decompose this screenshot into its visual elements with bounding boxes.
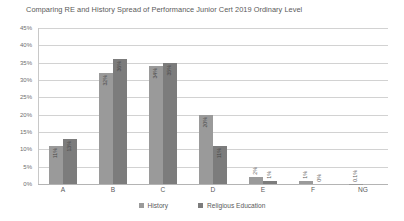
bar-value-label: 1%	[303, 171, 308, 179]
bar-value-label: 13%	[67, 141, 72, 152]
y-axis-tick-label: 25%	[20, 94, 32, 100]
y-axis-tick-label: 35%	[20, 60, 32, 66]
legend-item[interactable]: Religious Education	[198, 202, 265, 209]
bar-value-label: 20%	[203, 117, 208, 128]
y-axis-tick-label: 40%	[20, 42, 32, 48]
y-axis-labels: 45%40%35%30%25%20%15%10%5%0%	[0, 28, 34, 184]
bar[interactable]: 1%	[263, 181, 277, 184]
y-axis-tick-label: 20%	[20, 112, 32, 118]
bar-value-label: 11%	[217, 148, 222, 158]
x-axis-tick-label: E	[261, 186, 265, 193]
gridline	[38, 184, 388, 185]
bar[interactable]: 11%	[49, 146, 63, 184]
bar-group: 32%36%	[88, 28, 138, 184]
bar-value-label: 32%	[103, 75, 108, 86]
y-axis-tick-label: 5%	[23, 164, 32, 170]
bar-value-label: 0.1%	[353, 170, 358, 182]
x-axis-tick-label: NG	[358, 186, 368, 193]
bar[interactable]: 1%	[299, 181, 313, 184]
bar-value-label: 34%	[153, 68, 158, 79]
bar[interactable]: 2%	[249, 177, 263, 184]
bar-value-label: 11%	[53, 148, 58, 158]
bar[interactable]: 20%	[199, 115, 213, 184]
x-axis-tick-label: D	[211, 186, 216, 193]
x-axis-tick-label: A	[61, 186, 65, 193]
bar-group: 11%13%	[38, 28, 88, 184]
bar[interactable]: 36%	[113, 59, 127, 184]
bar-group: 20%11%	[188, 28, 238, 184]
x-axis-labels: ABCDEFNG	[38, 186, 388, 198]
bar[interactable]: 34%	[149, 66, 163, 184]
bar-group: 0.1%	[338, 28, 388, 184]
bar[interactable]: 32%	[99, 73, 113, 184]
y-axis-tick-label: 30%	[20, 77, 32, 83]
bar-value-label: 36%	[117, 61, 122, 72]
bar-value-label: 1%	[267, 171, 272, 179]
legend-label: Religious Education	[207, 202, 265, 209]
y-axis-tick-label: 45%	[20, 25, 32, 31]
x-axis-tick-label: F	[311, 186, 315, 193]
bar-chart: Comparing RE and History Spread of Perfo…	[0, 0, 404, 221]
legend-swatch-icon	[198, 203, 203, 208]
legend-swatch-icon	[139, 203, 144, 208]
plot-area: 11%13%32%36%34%35%20%11%2%1%1%0%0.1%	[38, 28, 388, 184]
bar-series-container: 11%13%32%36%34%35%20%11%2%1%1%0%0.1%	[38, 28, 388, 184]
bar-group: 2%1%	[238, 28, 288, 184]
y-axis-tick-label: 0%	[23, 181, 32, 187]
bar-value-label: 2%	[253, 167, 258, 175]
chart-legend: HistoryReligious Education	[0, 202, 404, 209]
bar[interactable]: 35%	[163, 63, 177, 184]
bar-value-label: 0%	[317, 174, 322, 182]
legend-label: History	[148, 202, 169, 209]
bar[interactable]: 11%	[213, 146, 227, 184]
bar[interactable]: 13%	[63, 139, 77, 184]
legend-item[interactable]: History	[139, 202, 169, 209]
x-axis-tick-label: C	[161, 186, 166, 193]
bar-value-label: 35%	[167, 65, 172, 76]
y-axis-tick-label: 10%	[20, 146, 32, 152]
bar-group: 1%0%	[288, 28, 338, 184]
bar-group: 34%35%	[138, 28, 188, 184]
chart-title: Comparing RE and History Spread of Perfo…	[26, 5, 302, 14]
x-axis-tick-label: B	[111, 186, 115, 193]
y-axis-tick-label: 15%	[20, 129, 32, 135]
